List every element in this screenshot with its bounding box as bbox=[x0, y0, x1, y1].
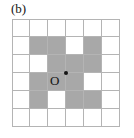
grid-cell bbox=[30, 37, 48, 55]
grid-cell bbox=[84, 55, 102, 73]
grid-cell bbox=[12, 37, 30, 55]
grid-cell bbox=[12, 91, 30, 109]
grid-cell bbox=[66, 37, 84, 55]
grid-cell bbox=[66, 19, 84, 37]
grid-cell bbox=[84, 37, 102, 55]
grid-cell bbox=[30, 91, 48, 109]
origin-label: O bbox=[50, 74, 59, 88]
grid-cell bbox=[102, 109, 120, 127]
grid-cell bbox=[48, 19, 66, 37]
origin-dot-icon bbox=[64, 71, 68, 75]
grid-cell bbox=[66, 55, 84, 73]
grid-cell bbox=[84, 91, 102, 109]
grid-cell bbox=[102, 37, 120, 55]
grid-cell bbox=[48, 37, 66, 55]
grid-cell bbox=[102, 55, 120, 73]
grid-container: O bbox=[12, 19, 120, 127]
grid-cell bbox=[48, 55, 66, 73]
grid-cell bbox=[102, 91, 120, 109]
grid-cell bbox=[66, 73, 84, 91]
grid-cell bbox=[30, 19, 48, 37]
grid-cell bbox=[30, 55, 48, 73]
grid-cell bbox=[84, 19, 102, 37]
grid-cell bbox=[66, 91, 84, 109]
grid-cell bbox=[102, 73, 120, 91]
grid-cell bbox=[12, 19, 30, 37]
figure-panel: (b) O bbox=[0, 0, 134, 138]
grid-cell bbox=[12, 73, 30, 91]
grid-cell bbox=[66, 109, 84, 127]
grid-cell bbox=[84, 73, 102, 91]
grid-cell bbox=[30, 109, 48, 127]
grid-cell bbox=[30, 73, 48, 91]
grid-cell bbox=[12, 109, 30, 127]
grid-cell bbox=[48, 91, 66, 109]
panel-label: (b) bbox=[11, 1, 26, 16]
grid-cell bbox=[84, 109, 102, 127]
grid-cell bbox=[48, 109, 66, 127]
grid-cell bbox=[102, 19, 120, 37]
grid-cell bbox=[12, 55, 30, 73]
